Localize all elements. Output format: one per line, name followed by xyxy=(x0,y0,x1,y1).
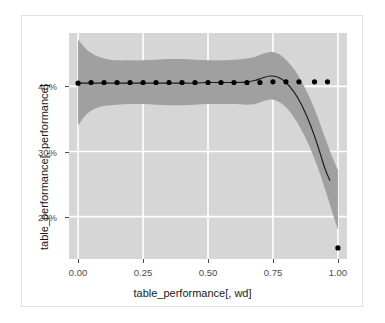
data-point xyxy=(127,80,132,85)
data-point xyxy=(88,80,93,85)
x-tick-label-1: 0.25 xyxy=(134,267,153,278)
x-tick-label-4: 1.00 xyxy=(329,267,348,278)
data-point xyxy=(166,80,171,85)
data-point xyxy=(283,79,288,84)
data-point xyxy=(296,79,301,84)
x-tick-label-2: 0.50 xyxy=(199,267,218,278)
y-tick-mark-1 xyxy=(65,152,69,153)
data-point xyxy=(192,80,197,85)
x-tick-mark-0 xyxy=(78,259,79,263)
y-tick-mark-0 xyxy=(65,86,69,87)
data-point xyxy=(270,79,275,84)
x-tick-label-3: 0.75 xyxy=(264,267,283,278)
x-axis-title: table_performance[, wd] xyxy=(0,287,385,299)
data-point xyxy=(325,79,330,84)
data-point xyxy=(231,80,236,85)
x-tick-mark-3 xyxy=(273,259,274,263)
data-point xyxy=(114,80,119,85)
plot-canvas xyxy=(69,33,347,259)
x-tick-label-0: 0.00 xyxy=(69,267,88,278)
x-tick-mark-1 xyxy=(143,259,144,263)
data-point xyxy=(179,80,184,85)
data-point xyxy=(312,79,317,84)
y-axis-title: table_performance[, performance] xyxy=(38,84,50,250)
x-tick-mark-4 xyxy=(338,259,339,263)
y-tick-mark-2 xyxy=(65,217,69,218)
data-point xyxy=(244,80,249,85)
data-point xyxy=(335,245,340,250)
chart-figure: 40%30%20% table_performance[, performanc… xyxy=(0,0,385,323)
data-point xyxy=(140,80,145,85)
data-point xyxy=(101,80,106,85)
plot-panel xyxy=(69,33,347,259)
x-tick-mark-2 xyxy=(208,259,209,263)
data-point xyxy=(153,80,158,85)
data-point xyxy=(75,81,80,86)
data-point xyxy=(218,80,223,85)
data-point xyxy=(205,80,210,85)
data-point xyxy=(257,80,262,85)
